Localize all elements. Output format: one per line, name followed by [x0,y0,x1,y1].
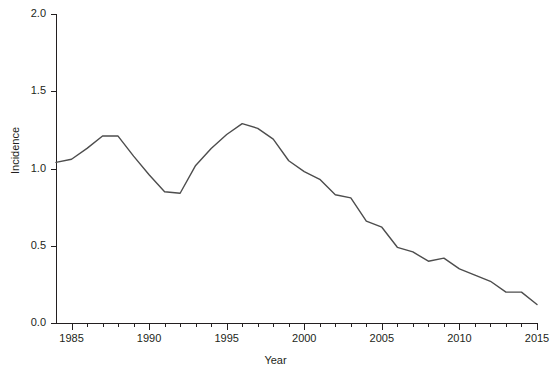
incidence-line-chart: 0.00.51.01.52.0 198519901995200020052010… [0,0,551,379]
series-plot [0,0,551,379]
series-line-incidence [56,124,537,305]
x-axis-label: Year [0,355,551,366]
y-axis-label: Incidence [10,111,21,191]
